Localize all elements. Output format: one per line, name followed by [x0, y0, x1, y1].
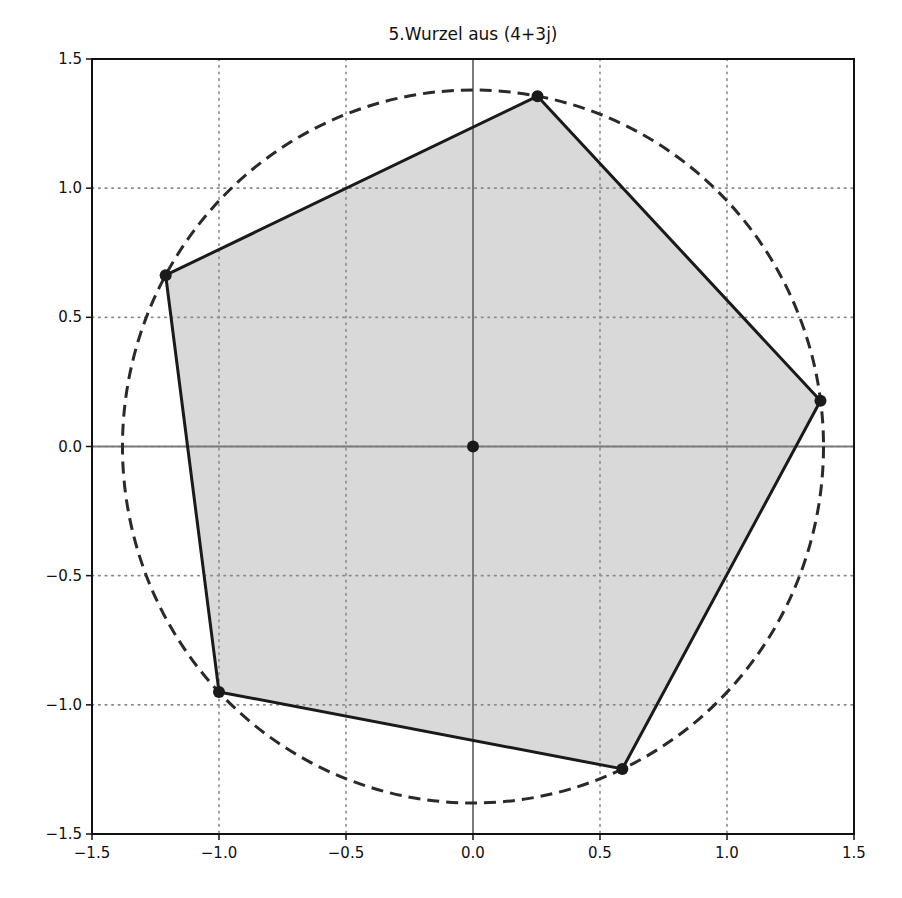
y-tick-label: −1.5: [46, 825, 82, 843]
root-marker: [532, 90, 544, 102]
chart-canvas: 5.Wurzel aus (4+3j) −1.5−1.0−0.50.00.51.…: [0, 0, 902, 898]
x-tick-label: −1.5: [74, 844, 110, 862]
x-tick-label: 0.0: [461, 844, 485, 862]
y-axis-ticks: −1.5−1.0−0.50.00.51.01.5: [46, 50, 92, 843]
x-tick-label: −0.5: [328, 844, 364, 862]
x-tick-label: 1.0: [715, 844, 739, 862]
y-tick-label: 1.5: [58, 50, 82, 68]
root-marker: [160, 269, 172, 281]
x-axis-ticks: −1.5−1.0−0.50.00.51.01.5: [74, 834, 866, 862]
root-marker: [616, 763, 628, 775]
y-tick-label: 0.0: [58, 438, 82, 456]
y-tick-label: −0.5: [46, 567, 82, 585]
root-marker: [814, 395, 826, 407]
y-tick-label: −1.0: [46, 696, 82, 714]
y-tick-label: 1.0: [58, 179, 82, 197]
x-tick-label: −1.0: [201, 844, 237, 862]
y-tick-label: 0.5: [58, 308, 82, 326]
x-tick-label: 1.5: [842, 844, 866, 862]
x-tick-label: 0.5: [588, 844, 612, 862]
plot-area: [92, 59, 854, 834]
origin-marker: [467, 441, 479, 453]
root-marker: [213, 686, 225, 698]
chart-title: 5.Wurzel aus (4+3j): [388, 24, 557, 44]
